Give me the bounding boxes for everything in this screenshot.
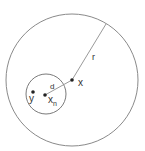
label-y: y — [29, 93, 34, 104]
neighborhood-diagram: r d x xn y — [0, 0, 145, 151]
radius-line — [72, 24, 106, 80]
label-x-n-sub: n — [53, 100, 57, 107]
point-x-n — [43, 93, 47, 97]
label-x: x — [78, 77, 83, 88]
label-x-n: xn — [48, 94, 57, 107]
point-x — [70, 78, 74, 82]
label-d: d — [50, 82, 54, 91]
label-r: r — [92, 52, 95, 62]
